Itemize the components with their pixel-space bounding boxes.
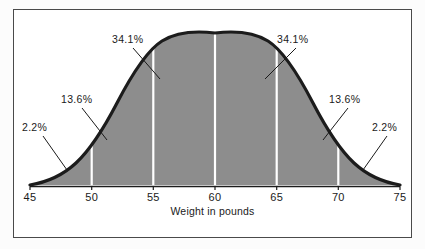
annotation-right-34-1: 34.1% (277, 33, 308, 45)
annotation-left-13-6: 13.6% (61, 93, 92, 105)
figure-container: 2.2% 13.6% 34.1% 34.1% 13.6% 2.2% 45 50 … (0, 0, 425, 249)
x-axis-title: Weight in pounds (0, 205, 425, 217)
x-tick-label-55: 55 (138, 191, 168, 203)
leader-line-left-mid (82, 108, 107, 140)
annotation-left-tail-2-2: 2.2% (22, 121, 47, 133)
x-tick-label-75: 75 (385, 191, 415, 203)
annotation-right-tail-2-2: 2.2% (372, 121, 397, 133)
x-tick-label-50: 50 (77, 191, 107, 203)
x-tick-label-45: 45 (15, 191, 45, 203)
annotation-left-34-1: 34.1% (112, 33, 143, 45)
leader-line-right-tail (363, 136, 387, 170)
x-tick-label-65: 65 (262, 191, 292, 203)
x-tick-label-60: 60 (200, 191, 230, 203)
leader-line-right-mid (323, 108, 348, 140)
x-tick-label-70: 70 (323, 191, 353, 203)
annotation-right-13-6: 13.6% (329, 93, 360, 105)
leader-line-left-tail (43, 136, 67, 170)
